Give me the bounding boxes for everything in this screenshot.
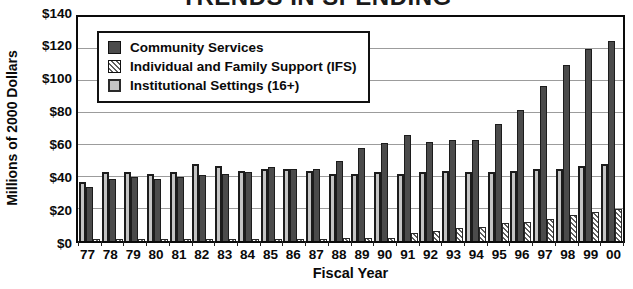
bar-hatched-84 xyxy=(252,239,259,241)
x-tick-label-88: 88 xyxy=(328,247,351,262)
bar-hatched-85 xyxy=(275,239,282,241)
bar-group-95 xyxy=(487,17,510,241)
legend-swatch-solid-gray-icon xyxy=(108,79,121,92)
x-tick-16 xyxy=(441,241,442,246)
bar-solid-gray-92 xyxy=(419,172,426,241)
bar-solid-dark-90 xyxy=(381,143,388,241)
bar-group-00 xyxy=(600,17,623,241)
bar-solid-gray-95 xyxy=(488,172,495,241)
y-tick-label-140: $140 xyxy=(42,6,72,20)
bar-solid-dark-80 xyxy=(154,179,161,241)
x-tick-15 xyxy=(419,241,420,246)
x-tick-10 xyxy=(305,241,306,246)
y-tick-label-0: $0 xyxy=(57,236,72,250)
legend-label: Community Services xyxy=(130,40,264,55)
x-axis-title: Fiscal Year xyxy=(76,265,625,281)
x-tick-label-95: 95 xyxy=(488,247,511,262)
legend-label: Individual and Family Support (IFS) xyxy=(130,59,357,74)
bar-solid-gray-80 xyxy=(147,174,154,241)
bar-solid-gray-79 xyxy=(124,172,131,241)
bar-solid-dark-83 xyxy=(222,174,229,241)
legend-label: Institutional Settings (16+) xyxy=(130,78,299,93)
spending-trends-chart: TRENDS IN SPENDING Millions of 2000 Doll… xyxy=(0,0,633,289)
bar-solid-dark-85 xyxy=(268,167,275,241)
bar-solid-gray-98 xyxy=(556,169,563,241)
bar-solid-dark-94 xyxy=(472,140,479,241)
bar-solid-gray-84 xyxy=(238,171,245,241)
x-tick-13 xyxy=(373,241,374,246)
x-tick-20 xyxy=(532,241,533,246)
x-tick-label-87: 87 xyxy=(305,247,328,262)
bar-solid-dark-84 xyxy=(245,172,252,241)
x-tick-22 xyxy=(578,241,579,246)
bar-hatched-79 xyxy=(138,239,145,241)
bar-hatched-80 xyxy=(161,239,168,241)
x-tick-label-00: 00 xyxy=(602,247,625,262)
x-tick-label-79: 79 xyxy=(122,247,145,262)
bar-solid-dark-95 xyxy=(495,124,502,241)
x-tick-label-97: 97 xyxy=(534,247,557,262)
bar-solid-gray-97 xyxy=(533,169,540,241)
y-tick-label-40: $40 xyxy=(49,171,72,185)
bar-solid-dark-96 xyxy=(517,110,524,241)
bar-hatched-00 xyxy=(615,209,622,241)
bar-solid-gray-87 xyxy=(306,171,313,241)
y-tick-label-60: $60 xyxy=(49,138,72,152)
bar-solid-dark-81 xyxy=(177,177,184,241)
x-tick-4 xyxy=(169,241,170,246)
bar-solid-dark-88 xyxy=(336,161,343,241)
bar-solid-gray-93 xyxy=(442,171,449,241)
x-tick-label-91: 91 xyxy=(396,247,419,262)
x-tick-8 xyxy=(260,241,261,246)
y-tick-label-120: $120 xyxy=(42,39,72,53)
bar-solid-gray-85 xyxy=(261,169,268,241)
y-tick-label-100: $100 xyxy=(42,72,72,86)
bar-solid-dark-91 xyxy=(404,135,411,241)
x-tick-label-82: 82 xyxy=(190,247,213,262)
bar-hatched-87 xyxy=(320,239,327,241)
bar-solid-dark-93 xyxy=(449,140,456,241)
bar-hatched-81 xyxy=(184,239,191,241)
x-tick-14 xyxy=(396,241,397,246)
bar-group-94 xyxy=(464,17,487,241)
legend-item-0: Community Services xyxy=(108,40,357,55)
x-tick-3 xyxy=(146,241,147,246)
x-tick-11 xyxy=(328,241,329,246)
y-axis-tick-labels: $0$20$40$60$80$100$120$140 xyxy=(30,13,72,243)
x-tick-label-92: 92 xyxy=(419,247,442,262)
bar-solid-dark-98 xyxy=(563,65,570,241)
bar-hatched-93 xyxy=(456,228,463,241)
legend-item-2: Institutional Settings (16+) xyxy=(108,78,357,93)
bar-solid-gray-00 xyxy=(601,164,608,241)
x-tick-label-96: 96 xyxy=(511,247,534,262)
legend-swatch-solid-dark-icon xyxy=(108,41,121,54)
bar-solid-gray-99 xyxy=(578,166,585,241)
x-tick-label-98: 98 xyxy=(556,247,579,262)
bar-hatched-98 xyxy=(570,215,577,241)
bar-group-90 xyxy=(373,17,396,241)
chart-title: TRENDS IN SPENDING xyxy=(0,0,633,11)
bar-group-96 xyxy=(509,17,532,241)
x-tick-18 xyxy=(487,241,488,246)
bar-solid-gray-77 xyxy=(79,182,86,241)
bar-solid-dark-78 xyxy=(109,179,116,241)
bar-solid-gray-78 xyxy=(102,172,109,241)
bar-hatched-92 xyxy=(433,231,440,241)
y-tick-label-80: $80 xyxy=(49,105,72,119)
bar-solid-dark-89 xyxy=(358,148,365,241)
bar-hatched-99 xyxy=(592,212,599,241)
bar-group-93 xyxy=(441,17,464,241)
x-tick-9 xyxy=(282,241,283,246)
bar-solid-gray-82 xyxy=(192,164,199,241)
y-axis-title: Millions of 2000 Dollars xyxy=(4,50,20,206)
bar-solid-dark-77 xyxy=(86,187,93,241)
x-tick-label-81: 81 xyxy=(168,247,191,262)
bar-solid-dark-86 xyxy=(290,169,297,241)
bar-hatched-88 xyxy=(343,238,350,241)
bar-hatched-91 xyxy=(411,233,418,241)
x-tick-label-77: 77 xyxy=(76,247,99,262)
bar-solid-dark-92 xyxy=(426,142,433,241)
x-tick-label-78: 78 xyxy=(99,247,122,262)
x-tick-0 xyxy=(78,241,79,246)
x-tick-19 xyxy=(509,241,510,246)
